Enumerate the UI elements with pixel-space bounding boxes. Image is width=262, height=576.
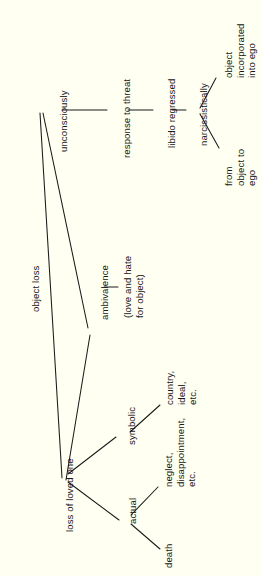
edge-actual-death: [131, 524, 160, 549]
node-libido-regressed: libido regressed: [166, 79, 178, 148]
edge-unconsciously-loss: [40, 113, 62, 478]
node-love-and-hate-for-object: (love and hate for object): [122, 256, 145, 318]
edge-loss-actual: [68, 482, 119, 520]
node-object-incorporated-into-ego: object incorporated into ego: [223, 23, 258, 78]
node-symbolic-examples: country, ideal, etc.: [164, 371, 199, 405]
diagram-canvas: object loss unconsciously response to th…: [0, 0, 262, 576]
node-actual: actual: [127, 498, 139, 524]
node-object-loss: object loss: [30, 266, 42, 312]
node-unconsciously: unconsciously: [58, 90, 70, 152]
node-death: death: [163, 543, 175, 568]
node-loss-of-loved-one: loss of loved one: [64, 458, 76, 532]
node-response-to-threat: response to threat: [121, 79, 133, 158]
node-narcissistically: narcissistically: [198, 83, 210, 146]
node-actual-examples: neglect, disappointment, etc.: [163, 418, 198, 487]
node-ambivalence: ambivalence: [99, 265, 111, 320]
node-symbolic: symbolic: [126, 407, 138, 445]
node-from-object-to-ego: from object to ego: [223, 147, 258, 186]
